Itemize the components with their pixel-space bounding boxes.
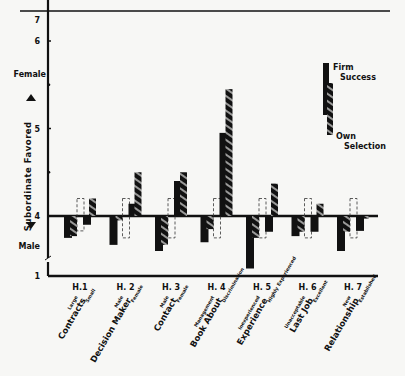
bar-own-selection-right [180, 172, 187, 216]
category-id-label: H. 5 [253, 283, 272, 292]
reference-box [168, 199, 175, 238]
y-tick-label: 6 [34, 37, 40, 46]
bar-own-selection-right [135, 172, 142, 216]
bar-firm-success-right [311, 216, 319, 232]
legend-label-success: Success [340, 73, 376, 82]
y-bottom-label: Male [18, 242, 40, 251]
bar-own-selection-right [89, 199, 96, 217]
bar-own-selection-right [362, 216, 369, 219]
bar-own-selection-left [116, 216, 123, 220]
y-minor-tick [48, 171, 51, 174]
y-axis-label: Subordinate Favored [23, 121, 33, 231]
bar-own-selection-left [252, 216, 259, 238]
y-tick-label: 4 [34, 212, 40, 221]
chart: 14567FemaleMaleSubordinate Favored H.1Co… [0, 0, 405, 376]
bar-own-selection-left [207, 216, 214, 229]
y-top-label: Female [14, 70, 47, 79]
bar-own-selection-left [161, 216, 168, 245]
category-id-label: H. 7 [344, 283, 362, 292]
reference-box [123, 199, 130, 238]
category-id-label: H. 3 [162, 283, 180, 292]
bar-firm-success-right [83, 216, 91, 225]
bar-own-selection-left [70, 216, 77, 236]
legend-swatch-own-selection [327, 83, 333, 135]
reference-box [214, 199, 221, 238]
category-id-label: H. 2 [116, 283, 134, 292]
legend-label-own: Own [336, 132, 356, 141]
legend-label-firm: Firm [333, 63, 354, 72]
category-id-label: H. 6 [298, 283, 317, 292]
category-id-label: H. 4 [207, 283, 226, 292]
reference-box [305, 199, 312, 238]
category-right-label: Highly Experienced [267, 255, 299, 304]
reference-box [350, 199, 357, 238]
bar-firm-success-right [265, 216, 273, 232]
y-tick-label: 7 [34, 16, 40, 25]
category-name-label: Decision Maker [88, 295, 134, 364]
y-tick-label: 1 [34, 272, 40, 281]
reference-box [77, 199, 84, 231]
bar-own-selection-right [271, 184, 278, 216]
bar-own-selection-left [298, 216, 305, 232]
reference-box [259, 199, 266, 238]
bar-own-selection-left [343, 216, 350, 232]
y-minor-tick [48, 83, 51, 86]
legend-label-selection: Selection [344, 142, 386, 151]
bar-own-selection-right [317, 204, 324, 216]
arrow-up-icon [26, 94, 36, 101]
y-tick-label: 5 [34, 125, 40, 134]
bar-own-selection-right [226, 89, 233, 216]
category-id-label: H.1 [72, 283, 88, 292]
